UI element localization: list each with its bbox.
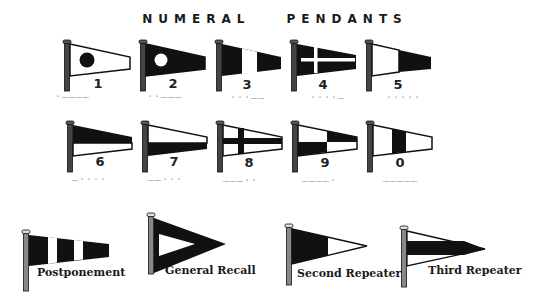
morse-code: ——··· [148,174,183,185]
morse-code: ———·· [223,175,258,186]
morse-code: ————· [302,175,337,186]
numeral-label: 2 [163,76,183,91]
numeral-label: 0 [390,155,410,170]
page-title: NUMERAL PENDANTS [0,12,544,26]
morse-code: ·———— [55,91,90,102]
caption-general-recall: General Recall [165,264,256,277]
morse-code: ————— [383,175,418,186]
numeral-label: 3 [237,77,257,92]
numeral-label: 6 [90,154,110,169]
numeral-label: 8 [239,155,259,170]
caption-third-repeater: Third Repeater [428,264,522,277]
pendant-third-repeater [400,226,485,287]
morse-code: ····— [310,92,345,103]
pendant-diagram [0,0,544,299]
numeral-label: 4 [313,77,333,92]
caption-second-repeater: Second Repeater [297,267,401,280]
numeral-label: 1 [88,76,108,91]
numeral-label: 5 [388,77,408,92]
caption-postponement: Postponement [37,266,125,279]
morse-code: ···—— [230,92,265,103]
morse-code: ··——— [147,91,182,102]
morse-code: —···· [72,174,107,185]
pendant-postponement [22,230,109,291]
numeral-label: 7 [164,154,184,169]
morse-code: ····· [386,92,421,103]
numeral-label: 9 [315,155,335,170]
